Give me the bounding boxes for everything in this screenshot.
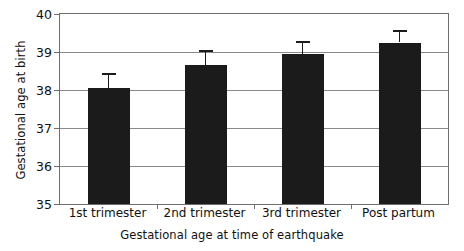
- y-axis-title: Gestational age at birth: [13, 15, 29, 205]
- x-tick-label: 3rd trimester: [262, 206, 341, 220]
- y-tick-38: [54, 90, 60, 91]
- y-tick-36: [54, 166, 60, 167]
- bar: [379, 43, 421, 205]
- error-bar-stem: [302, 41, 304, 54]
- y-tick-label: 37: [36, 121, 52, 136]
- x-tick-label: 1st trimester: [69, 206, 147, 220]
- y-tick-label: 38: [36, 83, 52, 98]
- error-bar-cap: [296, 41, 310, 43]
- y-tick-35: [54, 204, 60, 205]
- error-bar-cap: [102, 73, 116, 75]
- y-tick-37: [54, 128, 60, 129]
- bar: [88, 88, 130, 204]
- x-axis-tick-labels: 1st trimester2nd trimester3rd trimesterP…: [59, 206, 447, 224]
- error-bar-stem: [108, 73, 110, 88]
- y-tick-label: 40: [36, 7, 52, 22]
- y-tick-label: 35: [36, 197, 52, 212]
- error-bar-cap: [393, 30, 407, 32]
- y-tick-40: [54, 14, 60, 15]
- bar: [185, 65, 227, 204]
- y-tick-label: 36: [36, 159, 52, 174]
- plot-area: 353637383940: [59, 13, 449, 205]
- x-tick-label: 2nd trimester: [164, 206, 246, 220]
- bar-chart-figure: Gestational age at birth 353637383940 1s…: [0, 0, 464, 251]
- y-tick-39: [54, 52, 60, 53]
- error-bar-cap: [199, 50, 213, 52]
- error-bar-stem: [399, 30, 401, 43]
- bar: [282, 54, 324, 204]
- y-tick-label: 39: [36, 45, 52, 60]
- x-tick-label: Post partum: [362, 206, 435, 220]
- error-bar-stem: [205, 50, 207, 64]
- x-axis-title: Gestational age at time of earthquake: [0, 228, 464, 242]
